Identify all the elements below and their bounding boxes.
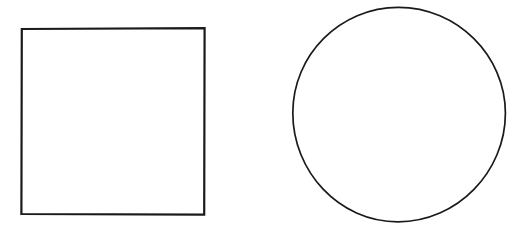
circle-outline-icon xyxy=(293,7,506,221)
drawing-canvas xyxy=(0,0,524,229)
shapes-figure xyxy=(0,0,524,229)
circle-shape xyxy=(293,7,506,221)
square-shape xyxy=(21,28,204,214)
square-outline-icon xyxy=(21,28,204,214)
